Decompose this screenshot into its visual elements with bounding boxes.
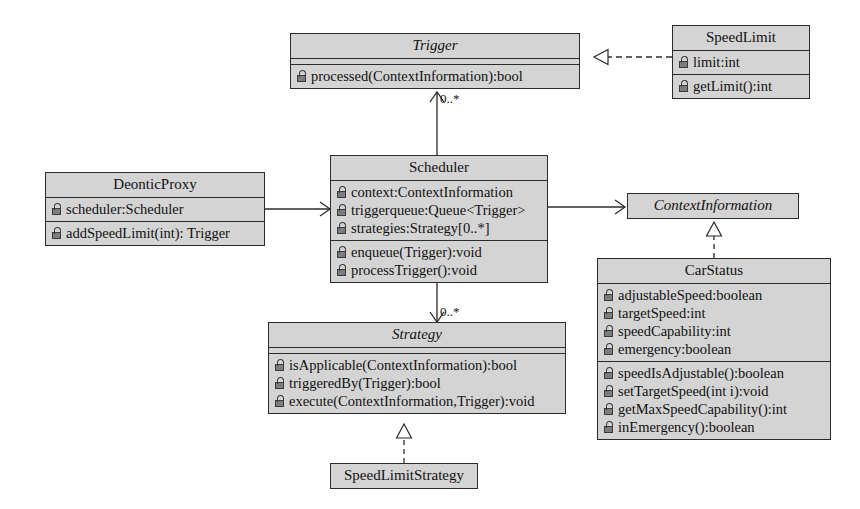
class-member: enqueue(Trigger):void — [335, 243, 543, 261]
class-box-scheduler[interactable]: Scheduler context:ContextInformation tri… — [330, 155, 548, 283]
attributes-compartment-carstatus: adjustableSpeed:boolean targetSpeed:int … — [598, 283, 830, 361]
class-member: adjustableSpeed:boolean — [602, 286, 826, 304]
member-text: setTargetSpeed(int i):void — [618, 382, 769, 400]
member-text: triggeredBy(Trigger):bool — [289, 374, 441, 392]
lock-icon — [296, 70, 307, 82]
methods-compartment-trigger: processed(ContextInformation):bool — [291, 64, 579, 88]
lock-icon — [274, 395, 285, 407]
class-member: processed(ContextInformation):bool — [295, 67, 575, 85]
class-member: targetSpeed:int — [602, 304, 826, 322]
class-box-strategy[interactable]: Strategy isApplicable(ContextInformation… — [268, 322, 566, 414]
member-text: execute(ContextInformation,Trigger):void — [289, 392, 535, 410]
attributes-compartment-speedlimit: limit:int — [673, 50, 809, 74]
methods-compartment-scheduler: enqueue(Trigger):void processTrigger():v… — [331, 240, 547, 282]
class-member: limit:int — [677, 53, 805, 71]
methods-compartment-deonticproxy: addSpeedLimit(int): Trigger — [46, 221, 264, 245]
lock-icon — [336, 246, 347, 258]
class-box-deonticproxy[interactable]: DeonticProxy scheduler:Scheduler addSpee… — [45, 172, 265, 246]
class-member: getMaxSpeedCapability():int — [602, 400, 826, 418]
class-name-speedlimit: SpeedLimit — [673, 26, 809, 50]
class-member: isApplicable(ContextInformation):bool — [273, 356, 561, 374]
lock-icon — [603, 385, 614, 397]
member-text: enqueue(Trigger):void — [351, 243, 482, 261]
class-member: getLimit():int — [677, 77, 805, 95]
member-text: limit:int — [693, 53, 740, 71]
lock-icon — [51, 227, 62, 239]
methods-compartment-strategy: isApplicable(ContextInformation):bool tr… — [269, 353, 565, 413]
methods-compartment-speedlimit: getLimit():int — [673, 74, 809, 98]
class-member: emergency:boolean — [602, 340, 826, 358]
member-text: triggerqueue:Queue<Trigger> — [351, 201, 525, 219]
lock-icon — [603, 325, 614, 337]
class-member: triggeredBy(Trigger):bool — [273, 374, 561, 392]
class-member: execute(ContextInformation,Trigger):void — [273, 392, 561, 410]
member-text: speedIsAdjustable():boolean — [618, 364, 784, 382]
lock-icon — [603, 343, 614, 355]
lock-icon — [51, 203, 62, 215]
member-text: inEmergency():boolean — [618, 418, 755, 436]
multiplicity-scheduler-trigger: 0..* — [440, 92, 460, 105]
member-text: getMaxSpeedCapability():int — [618, 400, 787, 418]
lock-icon — [274, 377, 285, 389]
member-text: context:ContextInformation — [351, 183, 513, 201]
class-member: strategies:Strategy[0..*] — [335, 219, 543, 237]
lock-icon — [603, 367, 614, 379]
attributes-compartment-deonticproxy: scheduler:Scheduler — [46, 197, 264, 221]
class-member: speedIsAdjustable():boolean — [602, 364, 826, 382]
member-text: isApplicable(ContextInformation):bool — [289, 356, 517, 374]
member-text: strategies:Strategy[0..*] — [351, 219, 490, 237]
class-name-deonticproxy: DeonticProxy — [46, 173, 264, 197]
class-member: context:ContextInformation — [335, 183, 543, 201]
lock-icon — [678, 56, 689, 68]
class-member: setTargetSpeed(int i):void — [602, 382, 826, 400]
class-box-contextinformation[interactable]: ContextInformation — [627, 193, 799, 219]
member-text: processed(ContextInformation):bool — [311, 67, 523, 85]
class-member: speedCapability:int — [602, 322, 826, 340]
member-text: speedCapability:int — [618, 322, 731, 340]
lock-icon — [603, 421, 614, 433]
class-name-trigger: Trigger — [291, 34, 579, 58]
multiplicity-scheduler-strategy: 0..* — [440, 305, 460, 318]
member-text: emergency:boolean — [618, 340, 731, 358]
member-text: scheduler:Scheduler — [66, 200, 184, 218]
class-name-contextinformation: ContextInformation — [628, 194, 798, 218]
class-name-speedlimitstrategy: SpeedLimitStrategy — [331, 464, 477, 488]
class-member: processTrigger():void — [335, 261, 543, 279]
member-text: processTrigger():void — [351, 261, 477, 279]
class-name-scheduler: Scheduler — [331, 156, 547, 180]
class-box-carstatus[interactable]: CarStatus adjustableSpeed:boolean target… — [597, 258, 831, 440]
member-text: adjustableSpeed:boolean — [618, 286, 762, 304]
class-box-speedlimit[interactable]: SpeedLimit limit:int getLimit():int — [672, 25, 810, 99]
lock-icon — [603, 289, 614, 301]
uml-class-diagram: Trigger (association with open arrow, mu… — [0, 0, 860, 509]
lock-icon — [336, 264, 347, 276]
lock-icon — [336, 186, 347, 198]
lock-icon — [336, 204, 347, 216]
class-member: triggerqueue:Queue<Trigger> — [335, 201, 543, 219]
member-text: targetSpeed:int — [618, 304, 706, 322]
class-name-carstatus: CarStatus — [598, 259, 830, 283]
lock-icon — [603, 403, 614, 415]
methods-compartment-carstatus: speedIsAdjustable():boolean setTargetSpe… — [598, 361, 830, 439]
class-box-speedlimitstrategy[interactable]: SpeedLimitStrategy — [330, 463, 478, 489]
class-box-trigger[interactable]: Trigger processed(ContextInformation):bo… — [290, 33, 580, 89]
lock-icon — [336, 222, 347, 234]
class-member: inEmergency():boolean — [602, 418, 826, 436]
member-text: addSpeedLimit(int): Trigger — [66, 224, 230, 242]
member-text: getLimit():int — [693, 77, 772, 95]
lock-icon — [603, 307, 614, 319]
class-member: scheduler:Scheduler — [50, 200, 260, 218]
class-name-strategy: Strategy — [269, 323, 565, 347]
class-member: addSpeedLimit(int): Trigger — [50, 224, 260, 242]
lock-icon — [678, 80, 689, 92]
attributes-compartment-scheduler: context:ContextInformation triggerqueue:… — [331, 180, 547, 240]
lock-icon — [274, 359, 285, 371]
